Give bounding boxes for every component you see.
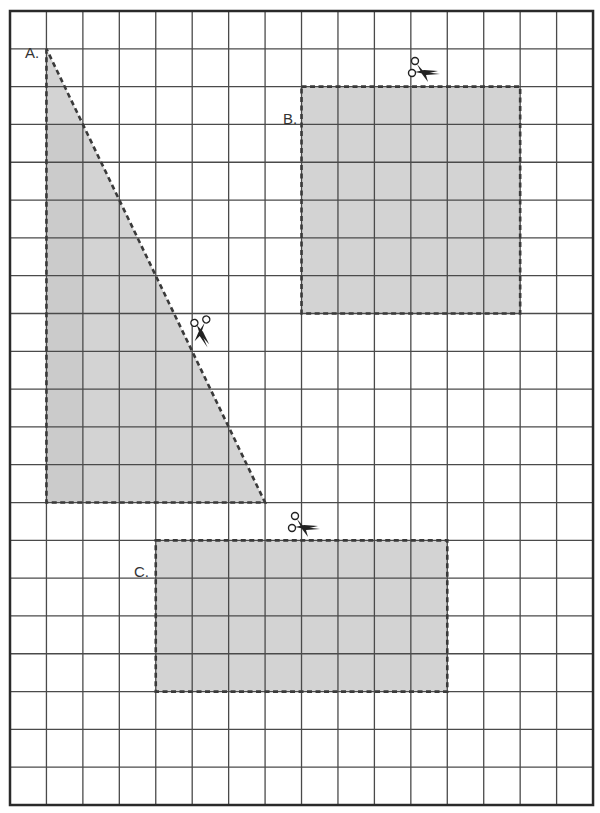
scissors-icon-b xyxy=(409,58,441,83)
shape-label-b: B. xyxy=(283,110,297,127)
grid-worksheet xyxy=(0,0,600,813)
scissors-icon-c xyxy=(289,513,321,538)
shape-label-a: A. xyxy=(25,44,39,61)
shape-label-c: C. xyxy=(134,563,149,580)
shape-fills xyxy=(46,49,520,692)
